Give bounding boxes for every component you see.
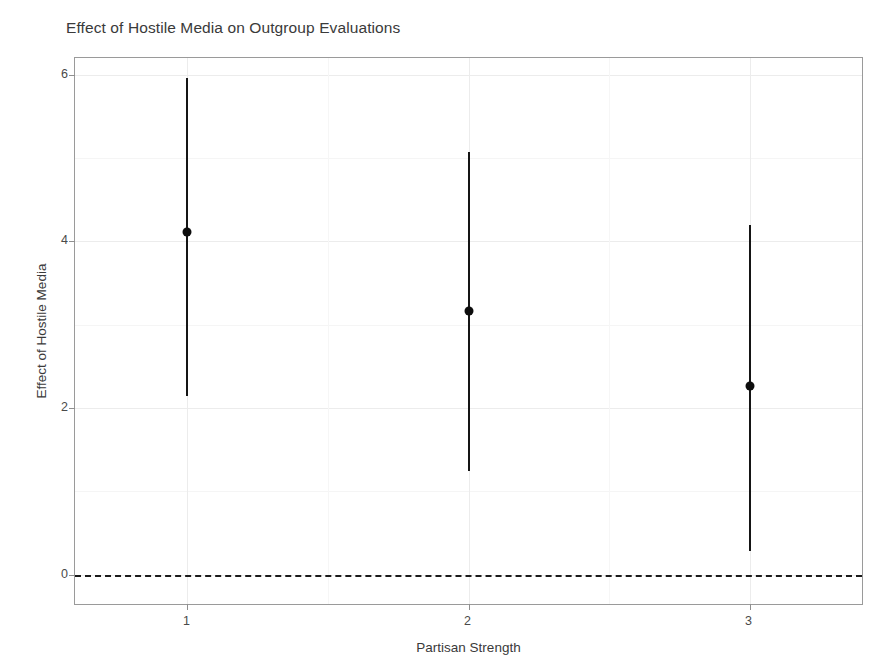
- y-tick-2: [69, 408, 75, 409]
- x-tick-label-2: 2: [464, 614, 471, 628]
- point-estimate-1: [183, 228, 192, 237]
- x-tick-3: [750, 604, 751, 610]
- x-tick-label-1: 1: [183, 614, 190, 628]
- y-axis-tick-labels: 0246: [52, 57, 68, 605]
- gridline-x-minor-1.5: [328, 58, 329, 604]
- x-tick-2: [469, 604, 470, 610]
- x-axis-tick-labels: 123: [74, 612, 863, 632]
- x-axis-title: Partisan Strength: [74, 640, 863, 655]
- chart-figure: Effect of Hostile Media on Outgroup Eval…: [0, 0, 888, 671]
- y-tick-label-4: 4: [61, 233, 68, 247]
- y-tick-0: [69, 575, 75, 576]
- y-tick-4: [69, 241, 75, 242]
- point-estimate-3: [745, 381, 754, 390]
- y-tick-6: [69, 75, 75, 76]
- y-tick-label-0: 0: [61, 567, 68, 581]
- y-tick-label-6: 6: [61, 67, 68, 81]
- y-tick-label-2: 2: [61, 400, 68, 414]
- point-estimate-2: [464, 306, 473, 315]
- plot-panel: [74, 57, 863, 605]
- zero-reference-line: [75, 575, 862, 577]
- x-tick-1: [187, 604, 188, 610]
- x-tick-label-3: 3: [745, 614, 752, 628]
- error-bar-1: [186, 78, 188, 396]
- gridline-x-minor-2.5: [609, 58, 610, 604]
- chart-title: Effect of Hostile Media on Outgroup Eval…: [66, 19, 400, 37]
